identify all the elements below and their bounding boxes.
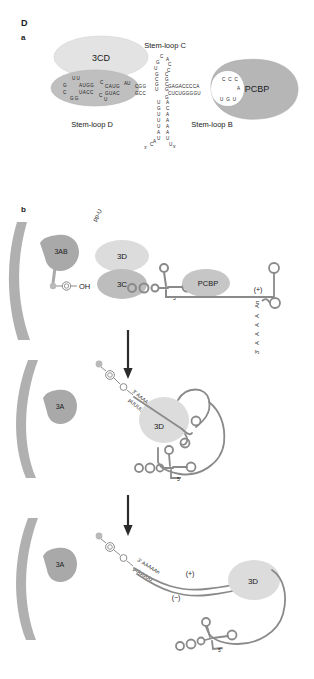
sld-junction-left: AU (124, 81, 130, 86)
protein-3a-label-step3: 3A (56, 561, 65, 568)
protein-3d-label-step3: 3D (248, 577, 258, 586)
sld-stem-bottom: UACC (79, 90, 94, 95)
basal-bottom-right-u: U (169, 142, 172, 147)
five-prime-label-step3: 5' (218, 647, 222, 653)
basal-five-prime: 5' (173, 144, 176, 149)
protein-3d-shape-step2 (139, 397, 189, 443)
sld-bulge-bottom: U (104, 97, 107, 102)
protein-3c-label-step1: 3C (117, 280, 127, 289)
protein-pcbp-label: PCBP (245, 84, 270, 94)
basal-left-1: U (157, 100, 160, 105)
protein-pcbp-label-step1: PCBP (198, 279, 218, 288)
vpg-dot-step3 (96, 533, 103, 540)
vpg-dot-step2 (96, 361, 103, 368)
sld-stem-top: AUGG (79, 83, 94, 88)
slc-left-col-1: G (156, 60, 160, 65)
polya-three-prime-step1: 3' (254, 350, 260, 354)
basal-left-2: G (157, 106, 161, 111)
basal-left-4: U (157, 118, 160, 123)
polya-a4-step1: A (254, 341, 260, 345)
sld-stem2-top: CAUG (105, 84, 120, 89)
slc-left-col-2: U (154, 66, 157, 71)
protein-3ab-label: 3AB (54, 248, 68, 255)
figure-root: D a b 3CD PCBP U U G C G G AUGG UACC C C… (0, 0, 314, 679)
polya-a2-step1: A (254, 323, 260, 327)
sld-loop-bottom: G G (70, 96, 79, 101)
protein-pcbp-group: PCBP (211, 59, 298, 119)
polya-a1-step1: A (254, 314, 260, 318)
sld-stem2-bottom: GUAC (105, 91, 120, 96)
polya-a3-step1: A (254, 332, 260, 336)
slb-stem-bottom: CUCUGGGGU (168, 91, 201, 96)
sld-loop-left-top: G (63, 83, 67, 88)
sld-loop-top: U U (72, 76, 80, 81)
polya-an-label-step1: An (254, 301, 260, 308)
protein-3d-label-step1: 3D (117, 252, 127, 261)
strand-minus-label-step3: (−) (172, 594, 181, 602)
basal-left-7: U (157, 136, 160, 141)
basal-right-7: U (166, 136, 169, 141)
strand-plus-label-step3: (+) (186, 570, 195, 578)
oh-label-step1: OH (79, 282, 90, 291)
slb-loop-bottom: U G U (220, 97, 237, 102)
protein-3cd-lower-shape (51, 70, 139, 106)
protein-3d-label-step2: 3D (154, 422, 164, 431)
protein-3cd-label: 3CD (92, 53, 111, 63)
slc-junction-bottom: GCC (135, 91, 146, 96)
slc-junction-top: CGG (135, 84, 146, 89)
basal-left-5: U (157, 124, 160, 129)
stem-loop-d-label: Stem-loop D (71, 120, 113, 129)
strand-plus-label-step1: (+) (254, 286, 263, 294)
panel-letter-a: a (21, 33, 26, 42)
protein-3ab-tail (53, 268, 55, 283)
basal-three-prime: 3' (144, 145, 147, 150)
protein-3a-label-step2: 3A (56, 403, 65, 410)
slc-stem-left-4: U (155, 87, 158, 92)
slb-stem-top: GAGACCCCA (168, 84, 200, 89)
five-prime-label-step1: 5' (173, 295, 177, 301)
stem-loop-b-label: Stem-loop B (191, 120, 232, 129)
cloverleaf-stem-c-step2 (169, 454, 170, 466)
basal-left-3: U (157, 112, 160, 117)
panel-letter-b: b (21, 205, 26, 214)
vpg-dot-step1 (50, 283, 56, 289)
five-prime-label-step2: 5' (177, 476, 181, 482)
panel-letter-D: D (21, 18, 28, 28)
stem-loop-c-label: Stem-loop C (144, 41, 186, 50)
slb-loop-top: C C C (222, 77, 239, 82)
